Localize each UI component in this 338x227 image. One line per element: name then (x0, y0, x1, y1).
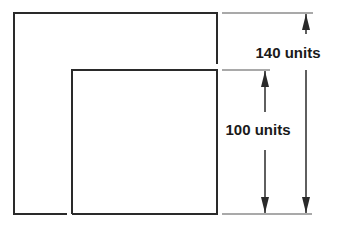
outer-square (14, 13, 217, 214)
arrowhead-up-icon (302, 14, 310, 30)
arrowhead-down-icon (261, 197, 269, 213)
inner-square (72, 70, 217, 214)
inner-dimension-label: 100 units (225, 121, 290, 138)
arrowhead-up-icon (261, 71, 269, 87)
dimension-100: 100 units (225, 71, 290, 213)
arrowhead-down-icon (302, 197, 310, 213)
outer-dimension-label: 140 units (255, 44, 320, 61)
diagram-canvas: 140 units 100 units (0, 0, 338, 227)
